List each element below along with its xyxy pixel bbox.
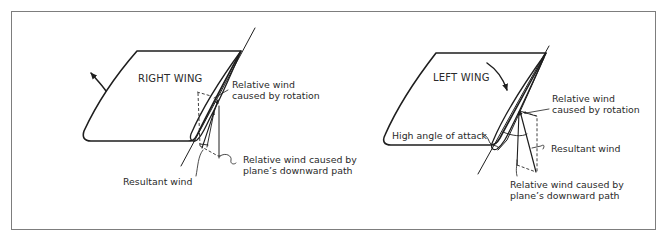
right-callout-downward-wind: Relative wind caused by plane’s downward… [243, 154, 360, 176]
right-leader-resultant [196, 150, 203, 176]
right-callout-rotation-wind: Relative wind caused by rotation [232, 79, 320, 101]
left-callout-resultant-wind: Resultant wind [551, 143, 621, 154]
curved-arrow-up-icon [91, 73, 106, 91]
left-wing-panel: LEFT WING Relative wind caused by rotati… [384, 46, 640, 201]
right-wing-label: RIGHT WING [138, 73, 203, 84]
left-callout-rotation-wind: Relative wind caused by rotation [552, 93, 640, 115]
diagram-canvas: RIGHT WING Relative wind caused by rotat… [0, 0, 668, 238]
left-resultant-arrow [520, 111, 536, 172]
right-leader-downward [220, 154, 236, 164]
right-wing-panel: RIGHT WING Relative wind caused by rotat… [83, 28, 360, 187]
left-angle-arc [503, 132, 527, 136]
left-leader-rotation [526, 109, 549, 113]
right-rotation-arrow [200, 144, 208, 145]
left-leader-resultant [532, 145, 544, 149]
right-callout-resultant-wind: Resultant wind [123, 176, 193, 187]
left-wing-label: LEFT WING [433, 72, 490, 83]
left-chord-line [478, 46, 549, 174]
spin-wind-diagram: RIGHT WING Relative wind caused by rotat… [0, 0, 668, 238]
left-leader-downward [516, 160, 517, 176]
left-downward-wind-arrow [517, 112, 519, 165]
curved-arrow-down-icon [487, 63, 507, 90]
left-callout-angle-of-attack: High angle of attack [392, 130, 488, 141]
left-callout-downward-wind: Relative wind caused by plane’s downward… [510, 179, 627, 201]
